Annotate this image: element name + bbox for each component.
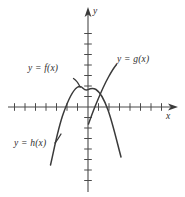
x-axis-label: x bbox=[166, 112, 170, 122]
curve-f-downward bbox=[51, 87, 122, 165]
function-label-g: y = g(x) bbox=[117, 55, 149, 65]
function-label-h: y = h(x) bbox=[14, 139, 46, 149]
curve-f-pointer-hook bbox=[74, 79, 81, 88]
curves-group bbox=[51, 65, 122, 166]
y-axis-label: y bbox=[93, 7, 97, 17]
graph-figure: y = f(x) y = g(x) y = h(x) y x bbox=[0, 0, 185, 197]
function-label-f: y = f(x) bbox=[28, 64, 58, 74]
axes-group bbox=[8, 7, 178, 192]
plot-canvas bbox=[0, 0, 185, 197]
curve-g-rising bbox=[89, 65, 117, 125]
